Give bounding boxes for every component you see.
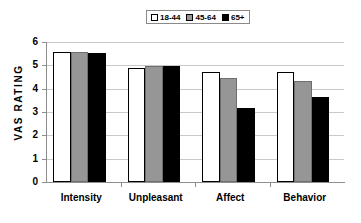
y-tick-label-5: 5 xyxy=(8,59,38,70)
bar-affect-18-44[interactable] xyxy=(202,72,220,182)
x-category-label-intensity: Intensity xyxy=(61,192,102,203)
bar-unpleasant-18-44[interactable] xyxy=(128,68,146,182)
x-category-label-affect: Affect xyxy=(216,192,244,203)
bar-intensity-18-44[interactable] xyxy=(53,52,71,182)
bar-behavior-65-plus[interactable] xyxy=(312,97,330,182)
bar-behavior-45-64[interactable] xyxy=(294,81,312,183)
bar-chart: 18-44 45-64 65+ VAS RATING 0123456 Inten… xyxy=(0,0,361,223)
legend-item-18-44[interactable]: 18-44 xyxy=(151,13,180,22)
legend-swatch-icon-65-plus xyxy=(222,14,229,21)
y-axis-title: VAS RATING xyxy=(13,33,24,173)
legend-label-18-44: 18-44 xyxy=(160,13,180,22)
y-tick-label-1: 1 xyxy=(8,153,38,164)
bar-unpleasant-65-plus[interactable] xyxy=(163,66,181,182)
bar-intensity-65-plus[interactable] xyxy=(88,53,106,182)
legend-label-45-64: 45-64 xyxy=(195,13,215,22)
bar-behavior-18-44[interactable] xyxy=(277,72,295,182)
y-tick-label-3: 3 xyxy=(8,106,38,117)
x-category-label-behavior: Behavior xyxy=(283,192,326,203)
legend-item-45-64[interactable]: 45-64 xyxy=(186,13,215,22)
y-tick-label-4: 4 xyxy=(8,83,38,94)
x-category-label-unpleasant: Unpleasant xyxy=(129,192,183,203)
legend-swatch-icon-45-64 xyxy=(186,14,193,21)
bar-affect-45-64[interactable] xyxy=(220,78,238,182)
y-tick-label-2: 2 xyxy=(8,129,38,140)
chart-legend: 18-44 45-64 65+ xyxy=(146,10,250,24)
legend-swatch-icon-18-44 xyxy=(151,14,158,21)
legend-item-65-plus[interactable]: 65+ xyxy=(222,13,245,22)
y-tick-label-0: 0 xyxy=(8,176,38,187)
legend-label-65-plus: 65+ xyxy=(231,13,245,22)
x-category-tick-2 xyxy=(195,182,196,187)
bar-affect-65-plus[interactable] xyxy=(237,108,255,182)
x-category-tick-1 xyxy=(121,182,122,187)
x-category-tick-3 xyxy=(270,182,271,187)
y-tick-label-6: 6 xyxy=(8,36,38,47)
bar-intensity-45-64[interactable] xyxy=(71,52,89,182)
bars-layer xyxy=(46,42,344,182)
bar-unpleasant-45-64[interactable] xyxy=(145,66,163,182)
y-tick-0 xyxy=(42,182,46,183)
